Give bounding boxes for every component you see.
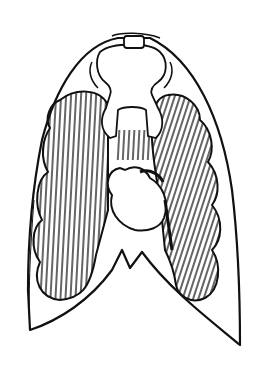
thorax-section-drawing	[0, 0, 263, 373]
spinal-process	[124, 36, 144, 48]
anatomical-illustration	[0, 0, 263, 373]
vertebra	[97, 45, 166, 139]
left-lung	[33, 92, 108, 300]
